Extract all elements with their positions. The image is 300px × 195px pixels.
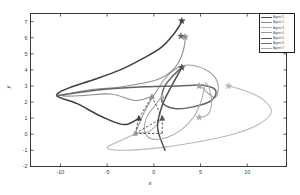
initial-position-marker bbox=[160, 94, 165, 99]
y-tick-label: -2 bbox=[9, 163, 28, 169]
legend-item[interactable]: Agent 5 bbox=[261, 36, 293, 41]
x-axis-title: x bbox=[0, 180, 300, 186]
x-tick-label: -10 bbox=[48, 169, 72, 175]
y-tick-label: 0 bbox=[9, 131, 28, 137]
y-tick-label: 7 bbox=[9, 19, 28, 25]
final-position-marker bbox=[196, 114, 202, 120]
legend-line-swatch bbox=[261, 17, 272, 18]
y-tick-label: -1 bbox=[9, 147, 28, 153]
x-tick-label: 5 bbox=[189, 169, 213, 175]
y-tick-label: 4 bbox=[9, 67, 28, 73]
figure-container: -10-50510 -2-101234567 x y Agent 1Agent … bbox=[0, 0, 300, 195]
trajectory-path bbox=[144, 83, 212, 140]
legend-item-label: Agent 6 bbox=[273, 41, 284, 46]
initial-position-marker bbox=[137, 116, 142, 121]
plot-canvas bbox=[0, 0, 300, 195]
y-tick-label: 2 bbox=[9, 99, 28, 105]
legend-item[interactable]: Agent 2 bbox=[261, 20, 293, 25]
trajectory-path bbox=[57, 67, 216, 108]
x-tick-label: 10 bbox=[235, 169, 259, 175]
y-axis-title: y bbox=[5, 75, 11, 99]
y-tick-label: 5 bbox=[9, 51, 28, 57]
legend-item[interactable]: Agent 1 bbox=[261, 15, 293, 20]
initial-position-marker bbox=[160, 116, 165, 121]
legend-item[interactable]: Agent 6 bbox=[261, 41, 293, 46]
final-position-marker bbox=[178, 33, 184, 39]
trajectory-path bbox=[107, 86, 271, 150]
final-position-marker bbox=[196, 83, 202, 89]
legend-line-swatch bbox=[261, 38, 272, 39]
y-tick-label: 3 bbox=[9, 83, 28, 89]
y-tick-label: 1 bbox=[9, 115, 28, 121]
legend-line-swatch bbox=[261, 32, 272, 33]
legend-box[interactable]: Agent 1Agent 2Agent 3Agent 4Agent 5Agent… bbox=[259, 13, 295, 53]
legend-line-swatch bbox=[261, 43, 272, 44]
legend-item-label: Agent 2 bbox=[273, 20, 284, 25]
legend-item-label: Agent 5 bbox=[273, 36, 284, 41]
trajectory-series-layer bbox=[57, 21, 272, 150]
trajectory-path bbox=[57, 21, 182, 125]
position-markers-layer bbox=[133, 17, 232, 135]
x-tick-label: 0 bbox=[142, 169, 166, 175]
legend-line-swatch bbox=[261, 48, 272, 49]
y-tick-label: 6 bbox=[9, 35, 28, 41]
x-tick-label: -5 bbox=[95, 169, 119, 175]
legend-item-label: Agent 1 bbox=[273, 15, 284, 20]
legend-item-label: Agent 7 bbox=[273, 46, 284, 51]
legend-item[interactable]: Agent 3 bbox=[261, 26, 293, 31]
legend-item-label: Agent 4 bbox=[273, 31, 284, 36]
axis-ticks bbox=[31, 14, 287, 167]
legend-item[interactable]: Agent 7 bbox=[261, 46, 293, 51]
legend-line-swatch bbox=[261, 27, 272, 28]
legend-item[interactable]: Agent 4 bbox=[261, 31, 293, 36]
legend-item-label: Agent 3 bbox=[273, 26, 284, 31]
final-position-marker bbox=[225, 83, 231, 89]
legend-line-swatch bbox=[261, 22, 272, 23]
